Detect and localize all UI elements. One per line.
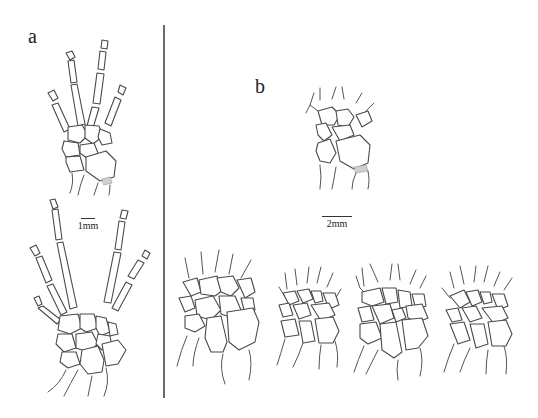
hand-skeleton-drawing-a-upper [30, 35, 140, 195]
carpal-drawing-b-1 [175, 250, 265, 385]
scale-bar-2mm: 2mm [318, 216, 356, 229]
panel-b-label: b [255, 76, 265, 96]
carpal-drawing-b-4 [440, 264, 520, 379]
carpal-drawing-b-3 [352, 262, 434, 382]
panel-divider [163, 25, 165, 398]
carpal-drawing-b-top [300, 85, 380, 195]
hand-skeleton-drawing-a-lower [22, 198, 157, 398]
scale-bar-label: 2mm [327, 218, 348, 229]
carpal-drawing-b-2 [275, 265, 350, 375]
scale-bar-line [322, 216, 352, 217]
